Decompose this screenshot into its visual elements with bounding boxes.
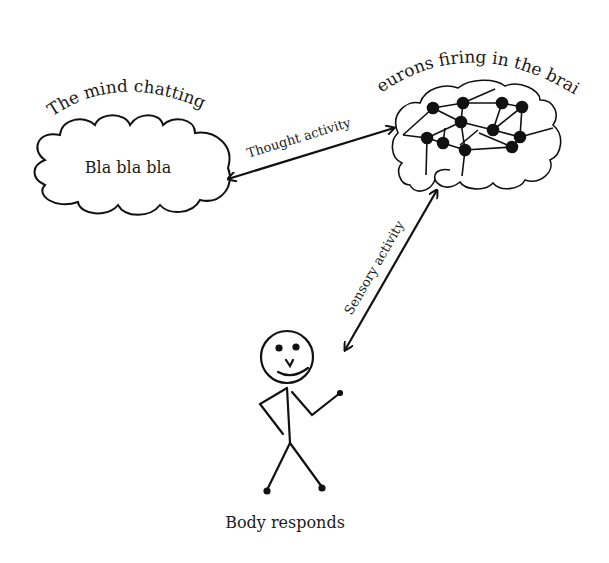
mind-node: The mind chatting Bla bla bla bbox=[34, 76, 229, 215]
edge-label-thought: Thought activity bbox=[245, 115, 353, 161]
stick-figure-icon bbox=[260, 331, 342, 494]
brain-network-icon bbox=[392, 80, 560, 191]
diagram-canvas: The mind chatting Bla bla bla Neurons fi… bbox=[0, 0, 609, 563]
mind-title: The mind chatting bbox=[44, 76, 209, 120]
mind-content: Bla bla bla bbox=[85, 158, 172, 177]
body-title: Body responds bbox=[225, 513, 345, 532]
edge-label-sensory: Sensory activity bbox=[341, 218, 407, 318]
edge-thought-activity: Thought activity bbox=[228, 115, 394, 179]
double-arrow-icon bbox=[345, 190, 437, 350]
diagram-svg: The mind chatting Bla bla bla Neurons fi… bbox=[0, 0, 609, 563]
body-node: Body responds bbox=[225, 331, 345, 532]
edge-sensory-activity: Sensory activity bbox=[341, 190, 437, 350]
